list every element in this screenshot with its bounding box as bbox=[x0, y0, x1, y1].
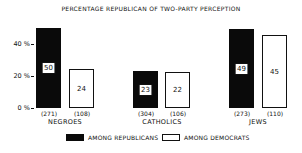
legend-label: AMONG REPUBLICANS bbox=[88, 134, 158, 141]
bar-value: 49 bbox=[235, 64, 248, 74]
legend-democrats: AMONG DEMOCRATS bbox=[162, 134, 250, 141]
bar-jews-democrats: 45 bbox=[262, 35, 287, 108]
n-label: (273) bbox=[227, 110, 257, 117]
legend-swatch-republicans bbox=[66, 134, 84, 141]
legend-label: AMONG DEMOCRATS bbox=[184, 134, 250, 141]
bar-negroes-democrats: 24 bbox=[69, 69, 94, 108]
category-catholics: CATHOLICS bbox=[122, 118, 202, 126]
bar-negroes-republicans: 50 bbox=[36, 28, 61, 108]
n-label: (304) bbox=[131, 110, 161, 117]
bar-value: 50 bbox=[42, 63, 55, 73]
chart-title: PERCENTAGE REPUBLICAN OF TWO-PARTY PERCE… bbox=[0, 5, 302, 12]
bar-value: 23 bbox=[139, 85, 152, 95]
bar-catholics-republicans: 23 bbox=[133, 71, 158, 108]
bar-jews-republicans: 49 bbox=[229, 29, 254, 108]
n-label: (106) bbox=[163, 110, 193, 117]
n-label: (110) bbox=[260, 110, 290, 117]
bar-value: 24 bbox=[77, 85, 86, 93]
legend-republicans: AMONG REPUBLICANS bbox=[66, 134, 158, 141]
bar-value: 45 bbox=[270, 68, 279, 76]
n-label: (108) bbox=[67, 110, 97, 117]
bar-value: 22 bbox=[173, 86, 182, 94]
category-negroes: NEGROES bbox=[25, 118, 105, 126]
n-label: (271) bbox=[34, 110, 64, 117]
y-tickmark-0 bbox=[31, 108, 34, 109]
y-tick-40: 40 % bbox=[0, 40, 30, 48]
legend-swatch-democrats bbox=[162, 134, 180, 141]
y-tickmark-20 bbox=[31, 76, 34, 77]
bar-catholics-democrats: 22 bbox=[165, 72, 190, 108]
y-tick-0: 0 % bbox=[0, 104, 30, 112]
y-tick-20: 20 % bbox=[0, 72, 30, 80]
y-tickmark-40 bbox=[31, 44, 34, 45]
category-jews: JEWS bbox=[218, 118, 298, 126]
